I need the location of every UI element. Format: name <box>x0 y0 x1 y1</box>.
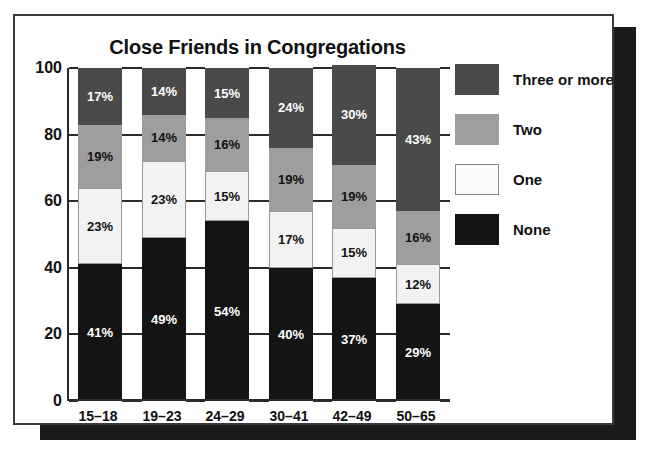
x-axis-tick-label: 30–41 <box>259 408 319 424</box>
legend-swatch-icon <box>455 64 499 95</box>
bar-segment-value-label: 41% <box>87 326 113 339</box>
bar-segment-value-label: 14% <box>151 131 177 144</box>
x-axis-tick-label: 19–23 <box>132 408 192 424</box>
bar-segment: 19% <box>78 125 122 188</box>
stacked-bar: 49%23%14%14% <box>142 68 186 401</box>
bar-segment: 23% <box>78 188 122 265</box>
bar-segment: 30% <box>332 65 376 165</box>
bar-segment-value-label: 16% <box>214 138 240 151</box>
legend-swatch-icon <box>455 164 499 195</box>
bar-segment: 16% <box>396 211 440 264</box>
bar-segment-value-label: 43% <box>405 133 431 146</box>
bar-segment-value-label: 49% <box>151 313 177 326</box>
bar-segment: 40% <box>269 268 313 401</box>
stacked-bar: 54%15%16%15% <box>205 68 249 401</box>
y-axis-tick-label: 40 <box>44 259 62 277</box>
bar-segment-value-label: 15% <box>341 246 367 259</box>
bar-group: 41%23%19%17%49%23%14%14%54%15%16%15%40%1… <box>69 68 450 401</box>
y-axis-tick-label: 100 <box>35 59 62 77</box>
bar-segment-value-label: 23% <box>151 193 177 206</box>
bar-segment-value-label: 54% <box>214 305 240 318</box>
legend-item[interactable]: One <box>455 154 615 204</box>
chart-screenshot: Close Friends in Congregations 41%23%19%… <box>0 0 650 450</box>
bar-segment: 43% <box>396 68 440 211</box>
bar-segment: 23% <box>142 161 186 238</box>
bar-segment-value-label: 29% <box>405 346 431 359</box>
bar-segment: 14% <box>142 68 186 115</box>
y-axis-tick-label: 60 <box>44 192 62 210</box>
legend-swatch-icon <box>455 214 499 245</box>
x-axis-tick-label: 42–49 <box>322 408 382 424</box>
bar-segment: 15% <box>332 228 376 278</box>
bar-segment-value-label: 19% <box>341 190 367 203</box>
chart-card: Close Friends in Congregations 41%23%19%… <box>13 14 614 425</box>
bar-segment-value-label: 19% <box>278 173 304 186</box>
bar-segment: 49% <box>142 238 186 401</box>
x-axis-labels: 15–1819–2324–2930–4142–4950–65 <box>67 408 448 430</box>
bar-segment: 17% <box>269 211 313 268</box>
y-axis-tick-label: 80 <box>44 126 62 144</box>
stacked-bar: 29%12%16%43% <box>396 68 440 401</box>
legend-swatch-icon <box>455 114 499 145</box>
legend-item[interactable]: Three or more <box>455 54 615 104</box>
bar-segment: 19% <box>332 165 376 228</box>
bar-segment: 17% <box>78 68 122 125</box>
legend-item[interactable]: Two <box>455 104 615 154</box>
legend-item-label: Two <box>513 121 542 138</box>
bar-segment-value-label: 15% <box>214 87 240 100</box>
bar-segment-value-label: 37% <box>341 333 367 346</box>
bar-segment-value-label: 19% <box>87 150 113 163</box>
bar-segment-value-label: 15% <box>214 190 240 203</box>
y-axis-tick-label: 0 <box>53 392 62 410</box>
bar-segment-value-label: 30% <box>341 108 367 121</box>
legend-item[interactable]: None <box>455 204 615 254</box>
bar-segment: 24% <box>269 68 313 148</box>
bar-segment-value-label: 23% <box>87 220 113 233</box>
bar-segment-value-label: 17% <box>278 233 304 246</box>
bar-segment: 54% <box>205 221 249 401</box>
bar-segment: 37% <box>332 278 376 401</box>
stacked-bar: 40%17%19%24% <box>269 68 313 401</box>
bar-segment: 15% <box>205 68 249 118</box>
plot-area: 41%23%19%17%49%23%14%14%54%15%16%15%40%1… <box>67 68 448 401</box>
bar-segment: 12% <box>396 264 440 304</box>
bar-segment-value-label: 16% <box>405 231 431 244</box>
x-axis-line <box>69 399 450 401</box>
bar-segment: 14% <box>142 115 186 162</box>
bar-segment-value-label: 24% <box>278 101 304 114</box>
bar-segment-value-label: 40% <box>278 328 304 341</box>
bar-segment-value-label: 17% <box>87 90 113 103</box>
legend-item-label: Three or more <box>513 71 614 88</box>
legend-item-label: None <box>513 221 551 238</box>
y-axis-tick-label: 20 <box>44 325 62 343</box>
chart-legend: Three or moreTwoOneNone <box>455 54 615 254</box>
bar-segment: 29% <box>396 304 440 401</box>
chart-title: Close Friends in Congregations <box>67 36 448 59</box>
x-axis-tick-label: 50–65 <box>386 408 446 424</box>
bar-segment-value-label: 14% <box>151 85 177 98</box>
stacked-bar: 41%23%19%17% <box>78 68 122 401</box>
card-shadow-right <box>614 27 636 440</box>
legend-item-label: One <box>513 171 542 188</box>
stacked-bar: 37%15%19%30% <box>332 65 376 401</box>
bar-segment-value-label: 12% <box>405 278 431 291</box>
bar-segment: 16% <box>205 118 249 171</box>
x-axis-tick-label: 15–18 <box>68 408 128 424</box>
bar-segment: 19% <box>269 148 313 211</box>
bar-segment: 41% <box>78 264 122 401</box>
x-axis-tick-label: 24–29 <box>195 408 255 424</box>
bar-segment: 15% <box>205 171 249 221</box>
